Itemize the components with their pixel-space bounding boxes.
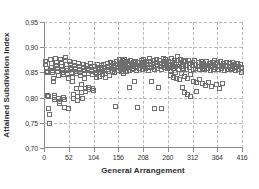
data-point (62, 97, 67, 102)
y-tick-mark (40, 98, 44, 99)
x-tick-mark (193, 148, 194, 152)
x-tick-label: 208 (137, 154, 148, 161)
y-tick-label: 0,90 (25, 44, 38, 51)
x-gridline (94, 22, 95, 148)
x-axis-title: General Arrangement (44, 166, 242, 175)
x-tick-mark (44, 148, 45, 152)
y-tick-label: 0,75 (25, 119, 38, 126)
data-point (156, 85, 161, 90)
data-point (149, 79, 154, 84)
x-tick-mark (69, 148, 70, 152)
data-point (113, 104, 118, 109)
x-gridline (242, 22, 243, 148)
x-gridline (69, 22, 70, 148)
y-tick-mark (40, 123, 44, 124)
x-tick-mark (217, 148, 218, 152)
x-tick-label: 312 (187, 154, 198, 161)
data-point (47, 112, 52, 117)
data-point (135, 105, 140, 110)
x-tick-label: 52 (65, 154, 72, 161)
x-tick-mark (118, 148, 119, 152)
data-point (47, 121, 52, 126)
data-point (188, 72, 193, 77)
x-gridline (143, 22, 144, 148)
data-point (80, 96, 85, 101)
data-point (132, 79, 137, 84)
plot-top-border (44, 22, 242, 23)
y-tick-label: 0,85 (25, 69, 38, 76)
y-tick-label: 0,95 (25, 19, 38, 26)
scatter-chart-figure: 0,700,750,800,850,900,950521041562082603… (0, 0, 259, 189)
data-point (46, 94, 51, 99)
x-tick-mark (94, 148, 95, 152)
x-tick-mark (242, 148, 243, 152)
x-tick-label: 416 (236, 154, 247, 161)
data-point (51, 79, 56, 84)
data-point (220, 81, 225, 86)
data-point (152, 106, 157, 111)
data-point (194, 89, 199, 94)
y-tick-mark (40, 47, 44, 48)
y-tick-label: 0,70 (25, 145, 38, 152)
data-point (46, 106, 51, 111)
x-tick-label: 156 (113, 154, 124, 161)
data-point (159, 106, 164, 111)
x-tick-label: 364 (212, 154, 223, 161)
data-point (188, 94, 193, 99)
x-tick-mark (168, 148, 169, 152)
data-point (66, 106, 71, 111)
data-point (127, 85, 132, 90)
x-tick-label: 0 (42, 154, 46, 161)
x-gridline (168, 22, 169, 148)
x-gridline (118, 22, 119, 148)
data-point (82, 76, 87, 81)
data-point (239, 70, 244, 75)
y-axis-title: Attained Subdivision Index (2, 22, 14, 148)
data-point (91, 88, 96, 93)
x-tick-label: 104 (88, 154, 99, 161)
data-point (217, 86, 222, 91)
x-tick-label: 260 (162, 154, 173, 161)
y-tick-label: 0,80 (25, 94, 38, 101)
x-tick-mark (143, 148, 144, 152)
plot-area: 0,700,750,800,850,900,950521041562082603… (44, 22, 242, 148)
data-point (70, 79, 75, 84)
